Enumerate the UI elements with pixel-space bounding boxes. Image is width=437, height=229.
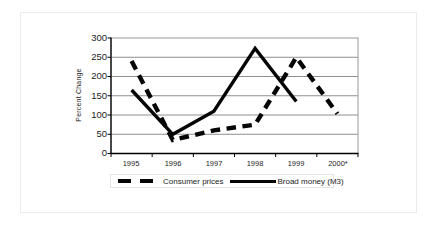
x-tick-label: 1995 xyxy=(114,159,148,168)
y-tick-label: 150 xyxy=(83,91,107,101)
legend-solid-line-swatch xyxy=(230,180,276,183)
legend-label-consumer-prices: Consumer prices xyxy=(163,177,223,186)
axis-ticks xyxy=(108,38,359,157)
figure: Percent Change 300 250 200 150 100 50 0 … xyxy=(0,0,437,229)
series-line-consumer-prices xyxy=(132,57,338,140)
legend: Consumer prices Broad money (M3) xyxy=(110,174,334,188)
legend-label-broad-money: Broad money (M3) xyxy=(277,177,343,186)
x-tick-label: 1998 xyxy=(238,159,272,168)
y-tick-label: 250 xyxy=(83,52,107,62)
y-tick-label: 200 xyxy=(83,71,107,81)
x-tick-label: 1997 xyxy=(197,159,231,168)
x-tick-label: 1996 xyxy=(156,159,190,168)
x-tick-label: 1999 xyxy=(279,159,313,168)
y-tick-label: 50 xyxy=(83,129,107,139)
series-line-broad-money xyxy=(132,48,297,134)
y-tick-label: 300 xyxy=(83,33,107,43)
chart-canvas xyxy=(0,0,437,229)
legend-dashed-line-swatch xyxy=(118,179,153,184)
x-tick-label: 2000* xyxy=(321,159,355,168)
y-tick-label: 0 xyxy=(83,148,107,158)
y-tick-label: 100 xyxy=(83,110,107,120)
